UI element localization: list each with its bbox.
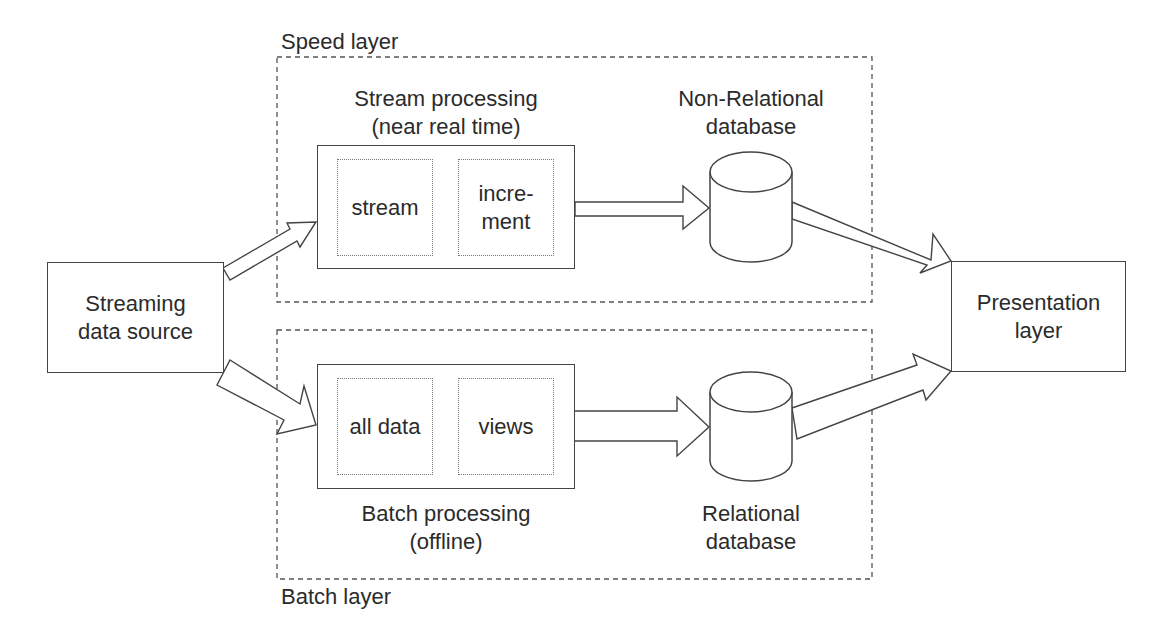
stream-part: stream — [337, 159, 433, 256]
speed-layer-title: Speed layer — [281, 28, 398, 56]
presentation-layer-node: Presentation layer — [951, 261, 1126, 372]
arrow-stream-to-nosql — [575, 186, 709, 229]
nosql-database-icon — [710, 152, 792, 262]
streaming-data-source-node: Streaming data source — [47, 262, 224, 373]
arrow-batch-to-sql — [574, 397, 709, 456]
lambda-architecture-diagram: Speed layer Batch layer Streaming data s… — [0, 0, 1165, 629]
batch-layer-title: Batch layer — [281, 583, 391, 611]
views-part: views — [458, 378, 554, 475]
sql-database-title: Relational database — [661, 500, 841, 556]
sql-database-icon — [710, 372, 792, 481]
nosql-database-title: Non-Relational database — [661, 85, 841, 141]
increment-part: incre- ment — [458, 159, 554, 256]
all-data-part: all data — [337, 378, 433, 475]
batch-processing-title: Batch processing (offline) — [317, 500, 575, 556]
arrow-source-to-batch — [217, 360, 316, 434]
arrow-source-to-stream — [223, 222, 316, 280]
stream-processing-title: Stream processing (near real time) — [317, 85, 575, 141]
